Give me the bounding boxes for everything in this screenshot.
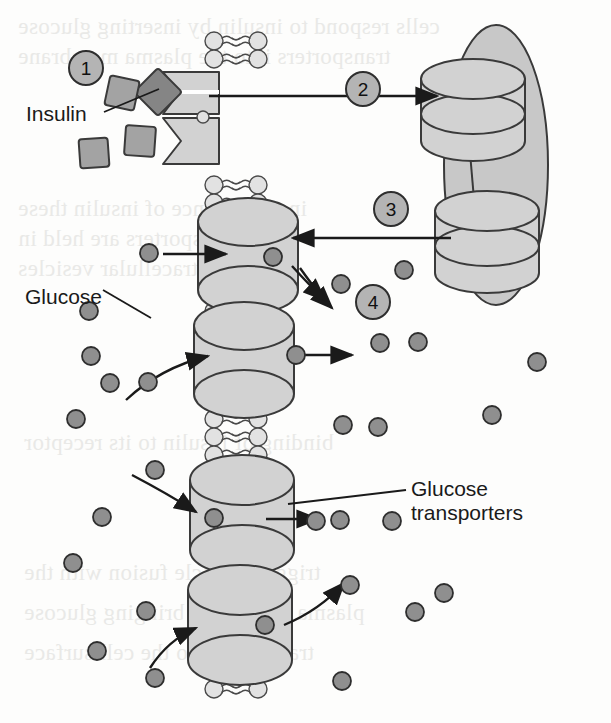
insulin-receptor-lower-subunit — [163, 118, 219, 164]
glucose-molecule-intracellular — [333, 672, 351, 690]
step-2-number: 2 — [358, 79, 369, 100]
transporter-4-upper-lobe — [188, 565, 292, 615]
glucose-molecule-extracellular — [64, 554, 82, 572]
lipid-tail-right — [232, 42, 250, 46]
glucose-molecules — [64, 244, 546, 690]
glucose-molecule-intracellular — [383, 512, 401, 530]
insulin-free-2 — [124, 125, 156, 157]
glucose-transporters-label-line1: Glucose — [411, 477, 523, 501]
glucose-molecule-intracellular — [369, 418, 387, 436]
step-1-number: 1 — [81, 58, 92, 79]
step-4-number: 4 — [368, 292, 379, 313]
transporter-3-upper-lobe — [190, 455, 294, 505]
lipid-tail-right — [232, 432, 250, 436]
glucose-molecule-extracellular — [139, 373, 157, 391]
lipid-tail-right — [232, 186, 250, 190]
lipid-head-right — [249, 50, 267, 68]
glucose-molecule-extracellular — [146, 461, 164, 479]
vesicle-transporter-lower-top-cap — [435, 191, 539, 231]
membrane-glucose-transporters — [188, 198, 298, 685]
glucose-molecule-extracellular — [93, 508, 111, 526]
glucose-molecule-intracellular — [307, 512, 325, 530]
vesicle-transporter-upper-top-cap — [421, 59, 525, 99]
glucose-molecule-intracellular — [406, 603, 424, 621]
diagram-artwork: 1234 — [0, 0, 611, 723]
glucose-transporters-label: Glucose transporters — [411, 477, 523, 524]
lipid-head-right — [249, 176, 267, 194]
glucose-molecule-intracellular — [334, 416, 352, 434]
glucose-label: Glucose — [25, 285, 102, 309]
glucose-molecule-extracellular — [101, 374, 119, 392]
transporter-1-upper-lobe — [198, 198, 298, 246]
leader-line-glucose — [103, 290, 151, 318]
glucose-molecule-intracellular — [528, 353, 546, 371]
insulin-glucose-transport-diagram: cells respond to insulin by inserting gl… — [0, 0, 611, 723]
lipid-tail-right — [232, 36, 250, 40]
lipid-head-left — [205, 176, 223, 194]
lipid-head-left — [205, 32, 223, 50]
glucose-molecule-intracellular — [341, 576, 359, 594]
intracellular-vesicle — [421, 25, 548, 305]
lipid-tail-right — [232, 690, 250, 694]
lipid-tail-right — [232, 180, 250, 184]
transporter-2-lower-lobe — [194, 370, 294, 418]
step-3-number: 3 — [386, 199, 397, 220]
glucose-molecule-extracellular — [140, 244, 158, 262]
glucose-molecule-intracellular — [435, 584, 453, 602]
lipid-head-right — [249, 32, 267, 50]
glucose-molecule-extracellular — [146, 669, 164, 687]
transporter-4-lower-lobe — [188, 635, 292, 685]
glucose-molecule-in-channel — [256, 616, 274, 634]
glucose-transporters-label-line2: transporters — [411, 501, 523, 525]
glucose-molecule-intracellular — [332, 275, 350, 293]
lipid-head-left — [205, 428, 223, 446]
leader-line-transporters — [288, 490, 406, 504]
arrow-glucose-into-transporter-3 — [132, 475, 196, 512]
glucose-molecule-intracellular — [395, 261, 413, 279]
receptor-linker-knob — [197, 111, 209, 123]
glucose-molecule-in-channel — [264, 248, 282, 266]
glucose-molecule-in-channel — [205, 509, 223, 527]
glucose-molecule-intracellular — [483, 406, 501, 424]
glucose-molecule-intracellular — [331, 511, 349, 529]
lipid-tail-right — [232, 54, 250, 58]
lipid-head-right — [249, 428, 267, 446]
glucose-molecule-extracellular — [88, 642, 106, 660]
arrow-step-4-exit — [300, 268, 332, 308]
insulin-free-1 — [104, 75, 140, 111]
lipid-head-left — [205, 50, 223, 68]
lipid-tail-right — [232, 450, 250, 454]
glucose-molecule-extracellular — [82, 347, 100, 365]
glucose-molecule-intracellular — [409, 333, 427, 351]
glucose-molecule-in-channel — [287, 346, 305, 364]
transporter-2-upper-lobe — [194, 302, 294, 350]
lipid-tail-right — [232, 420, 250, 424]
insulin-label: Insulin — [26, 102, 87, 126]
glucose-molecule-extracellular — [137, 602, 155, 620]
glucose-molecule-intracellular — [371, 334, 389, 352]
lipid-tail-right — [232, 60, 250, 64]
insulin-free-3 — [79, 138, 110, 169]
lipid-tail-right — [232, 438, 250, 442]
glucose-molecule-extracellular — [67, 410, 85, 428]
